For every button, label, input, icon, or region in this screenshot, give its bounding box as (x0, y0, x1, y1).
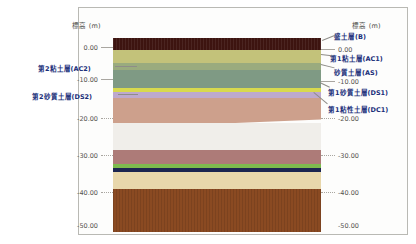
right-tickmark-1 (321, 81, 335, 82)
strata-label-DS2: 第2砂質土層(DS2) (32, 91, 92, 101)
strata-label-AS: 砂質土層(AS) (334, 67, 378, 77)
layer-pale (113, 123, 321, 150)
layer-bedrock (113, 189, 321, 232)
left-tick-4: -40.00 (58, 189, 98, 197)
right-tickmark-0 (321, 49, 335, 50)
layer-AS (113, 70, 321, 88)
left-tickmark-1 (101, 79, 113, 80)
strata-column (113, 38, 321, 232)
right-tick-5: -50.00 (338, 222, 378, 230)
right-tickmark-4 (321, 192, 335, 193)
left-tick-0: 0.00 (58, 44, 98, 52)
left-tick-5: -50.00 (58, 222, 98, 230)
right-tick-3: -30.00 (338, 152, 378, 160)
layer-AC2 (113, 63, 321, 70)
layer-DS1 (113, 92, 321, 98)
layer-DC1 (113, 150, 321, 164)
leader-AC2 (115, 66, 137, 67)
strata-label-DS1: 第1砂質土層(DS1) (328, 87, 388, 97)
right-tick-1: -10.00 (338, 78, 378, 86)
right-tick-4: -40.00 (338, 189, 378, 197)
left-tick-3: -30.00 (58, 152, 98, 160)
left-tick-2: -20.00 (58, 115, 98, 123)
right-tick-2: -20.00 (338, 115, 378, 123)
layer-sand (113, 172, 321, 189)
layer-AC1 (113, 50, 321, 63)
strata-label-AC2: 第2粘土層(AC2) (38, 63, 91, 73)
left-tickmark-0 (101, 47, 113, 48)
strata-label-B: 盛土層(B) (334, 31, 366, 41)
left-tickmark-2 (101, 118, 113, 119)
right-tickmark-3 (321, 155, 335, 156)
right-axis-title: 標高 (m) (352, 20, 381, 30)
geological-cross-section-figure: 標高 (m) 標高 (m) 0.00 -10.00 -20.00 - (0, 0, 416, 244)
right-tickmark-2 (321, 118, 335, 119)
strata-label-DC1: 第1粘性土層(DC1) (328, 104, 388, 114)
left-axis-title: 標高 (m) (72, 20, 101, 30)
left-tickmark-4 (101, 192, 113, 193)
left-tick-1: -10.00 (58, 76, 98, 84)
left-tickmark-3 (101, 155, 113, 156)
leader-DS2 (118, 94, 138, 95)
strata-label-AC1: 第1粘土層(AC1) (330, 53, 383, 63)
layer-B (113, 38, 321, 50)
